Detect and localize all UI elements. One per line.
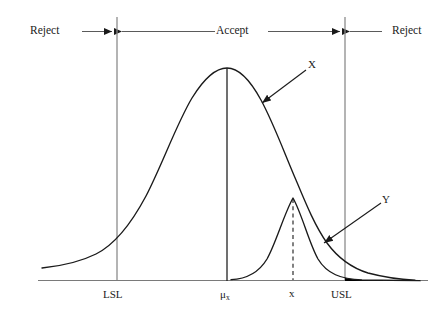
reject-left-label: Reject: [30, 25, 59, 37]
mu-subscript: x: [226, 293, 230, 302]
sample-curve-y: [231, 198, 420, 281]
x-curve-leader-arrow: [262, 70, 306, 103]
diagram-canvas: [0, 0, 447, 320]
accept-label: Accept: [216, 25, 249, 37]
process-capability-figure: Reject Accept Reject X Y LSL μx x USL: [0, 0, 447, 320]
reject-right-label: Reject: [392, 25, 421, 37]
curve-label-y: Y: [382, 194, 390, 205]
curve-label-x: X: [308, 59, 316, 70]
lsl-label: LSL: [103, 289, 123, 300]
usl-label: USL: [331, 289, 352, 300]
population-curve-x: [42, 68, 415, 280]
y-curve-leader-arrow: [324, 203, 381, 243]
sample-mean-label: x: [289, 288, 295, 299]
mu-label: μx: [220, 289, 230, 300]
